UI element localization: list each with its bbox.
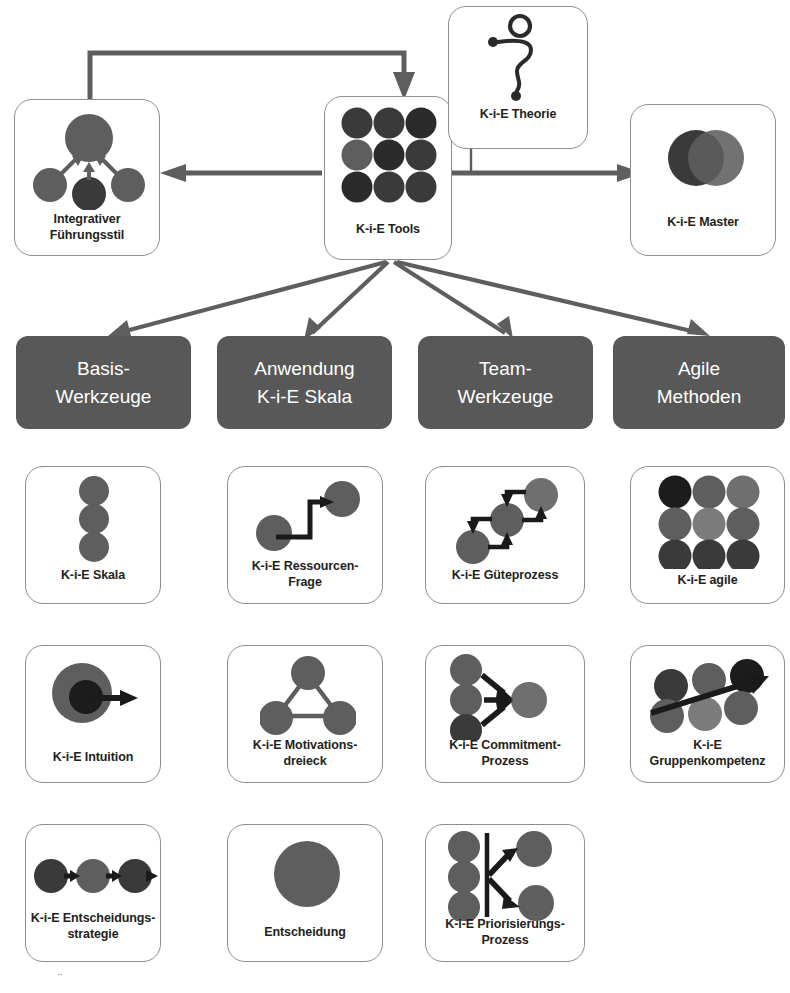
six-circles-rising-arrow-icon (643, 658, 775, 736)
category-label-line-2: Werkzeuge (458, 383, 554, 411)
four-circles-converging-icon (33, 110, 145, 210)
card-label-tool-kie-priorisierungsprozess: K-i-E Priorisierungs- Prozess (430, 917, 580, 948)
two-overlapping-circles-icon (665, 117, 747, 199)
split-bar-two-arrows-icon (444, 831, 564, 921)
category-label-line-1: Team- (479, 355, 532, 383)
label-line-2: dreieck (232, 754, 378, 770)
category-label-line-1: Anwendung (254, 355, 354, 383)
label-line-1: Integrativer (19, 212, 155, 228)
label-line-2: Gruppenkompetenz (635, 754, 780, 770)
card-kie-tools[interactable]: K-i-E Tools (324, 96, 452, 260)
label-line-1: K-i-E (635, 738, 780, 754)
connector-tools-to-fuehrungsstil (160, 164, 322, 182)
diagram-canvas: Integrativer Führungsstil K-i-E Tools K-… (0, 0, 790, 993)
card-tool-kie-agile[interactable]: K-i-E agile (630, 466, 785, 604)
category-box-team-werkzeuge[interactable]: Team- Werkzeuge (418, 336, 593, 429)
label-line-2: Prozess (430, 754, 580, 770)
label-line-2: strategie (30, 927, 156, 943)
card-tool-kie-gruppenkompetenz[interactable]: K-i-E Gruppenkompetenz (630, 645, 785, 783)
card-kie-master[interactable]: K-i-E Master (630, 104, 776, 256)
card-tool-kie-priorisierungsprozess[interactable]: K-i-E Priorisierungs- Prozess (425, 824, 585, 962)
category-label-line-2: Werkzeuge (56, 383, 152, 411)
circle-in-circle-arrow-icon (44, 660, 146, 734)
three-circles-chain-arrow-icon (32, 849, 158, 903)
card-label-tool-kie-gruppenkompetenz: K-i-E Gruppenkompetenz (635, 738, 780, 769)
diagonal-three-circles-loop-icon (448, 475, 566, 567)
card-label-tool-kie-agile: K-i-E agile (635, 573, 780, 589)
single-large-circle-icon (272, 839, 342, 909)
question-mark-squiggle-icon (477, 12, 553, 112)
category-label-line-2: K-i-E Skala (257, 383, 352, 411)
card-label-tool-kie-commitmentprozess: K-i-E Commitment- Prozess (430, 738, 580, 769)
three-stacked-circles-icon (70, 475, 118, 563)
card-label-tool-entscheidung: Entscheidung (232, 925, 378, 941)
category-box-anwendung-kie-skala[interactable]: Anwendung K-i-E Skala (217, 336, 392, 429)
card-tool-kie-commitmentprozess[interactable]: K-i-E Commitment- Prozess (425, 645, 585, 783)
three-to-one-arrows-icon (444, 654, 564, 740)
label-line-1: K-i-E Motivations- (232, 738, 378, 754)
card-label-tool-kie-entscheidungsstrategie: K-i-E Entscheidungs- strategie (30, 911, 156, 942)
category-label-line-1: Basis- (77, 355, 130, 383)
card-label-tool-kie-intuition: K-i-E Intuition (30, 750, 156, 766)
card-label-kie-master: K-i-E Master (635, 215, 771, 231)
category-label-line-1: Agile (678, 355, 720, 383)
card-tool-kie-gueteprozess[interactable]: K-i-E Güteprozess (425, 466, 585, 604)
card-label-tool-kie-gueteprozess: K-i-E Güteprozess (430, 568, 580, 584)
card-label-kie-tools: K-i-E Tools (329, 222, 447, 238)
card-label-kie-theorie: K-i-E Theorie (453, 107, 583, 123)
category-box-basis-werkzeuge[interactable]: Basis- Werkzeuge (16, 336, 191, 429)
label-line-2: Führungsstil (19, 228, 155, 244)
card-label-integrativer-fuehrungsstil: Integrativer Führungsstil (19, 212, 155, 243)
category-label-line-2: Methoden (657, 383, 742, 411)
card-tool-kie-motivationsdreieck[interactable]: K-i-E Motivations- dreieck (227, 645, 383, 783)
label-line-1: K-i-E Ressourcen- (232, 559, 378, 575)
card-tool-kie-entscheidungsstrategie[interactable]: K-i-E Entscheidungs- strategie (25, 824, 161, 962)
label-line-1: K-i-E Commitment- (430, 738, 580, 754)
nine-circle-grid-icon (657, 475, 761, 569)
label-line-1: K-i-E Entscheidungs- (30, 911, 156, 927)
card-label-tool-kie-skala: K-i-E Skala (30, 568, 156, 584)
step-up-arrow-two-circles-icon (254, 477, 364, 555)
card-tool-kie-intuition[interactable]: K-i-E Intuition (25, 645, 161, 783)
card-tool-entscheidung[interactable]: Entscheidung (227, 824, 383, 962)
card-integrativer-fuehrungsstil[interactable]: Integrativer Führungsstil (14, 99, 160, 256)
card-label-tool-kie-ressourcenfrage: K-i-E Ressourcen- Frage (232, 559, 378, 590)
connector-tools-to-master (452, 164, 643, 182)
card-kie-theorie[interactable]: K-i-E Theorie (448, 6, 588, 149)
card-tool-kie-ressourcenfrage[interactable]: K-i-E Ressourcen- Frage (227, 466, 383, 604)
bottom-cutoff-artifact: ¨ (58, 972, 62, 986)
label-line-2: Prozess (430, 933, 580, 949)
card-tool-kie-skala[interactable]: K-i-E Skala (25, 466, 161, 604)
label-line-2: Frage (232, 575, 378, 591)
card-label-tool-kie-motivationsdreieck: K-i-E Motivations- dreieck (232, 738, 378, 769)
category-box-agile-methoden[interactable]: Agile Methoden (613, 336, 785, 429)
three-by-three-circle-grid-icon (341, 107, 437, 203)
label-line-1: K-i-E Priorisierungs- (430, 917, 580, 933)
connector-fanout (108, 262, 710, 340)
triangle-three-circles-icon (260, 654, 356, 738)
